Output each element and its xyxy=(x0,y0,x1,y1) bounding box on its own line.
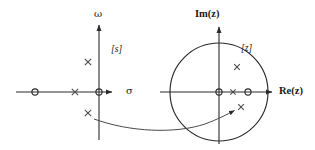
s-pole-lower-marker xyxy=(85,110,91,116)
z-plane-imaginary-axis-label: Im(z) xyxy=(195,9,220,20)
z-pole-lower-marker xyxy=(238,104,244,110)
figure-canvas xyxy=(0,0,315,150)
mapping-arrow-head-segment xyxy=(205,111,235,125)
s-plane-imaginary-axis-label: ω xyxy=(94,9,102,19)
z-plane-label: [z] xyxy=(241,44,252,54)
s-pole-upper-marker xyxy=(85,59,91,65)
z-plane-group xyxy=(160,27,272,144)
figure-root: ω σ [s] Im(z) Re(z) [z] xyxy=(0,0,315,150)
s-plane-group xyxy=(16,25,112,140)
z-plane-real-axis-label: Re(z) xyxy=(279,86,303,97)
z-pole-upper-marker xyxy=(234,64,240,70)
s-plane-real-axis-label: σ xyxy=(126,86,133,96)
s-plane-label: [s] xyxy=(111,45,122,55)
